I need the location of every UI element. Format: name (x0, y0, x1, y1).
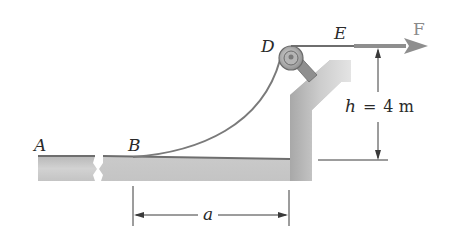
height-value: 4 m (383, 97, 413, 116)
label-dimension-a: a (203, 204, 213, 224)
height-var: h (345, 96, 356, 116)
label-point-B: B (127, 135, 141, 155)
label-point-D: D (260, 36, 275, 56)
ground-left-segment (38, 156, 97, 181)
pulley-D (279, 46, 303, 70)
label-height: h = 4 m (345, 96, 414, 116)
label-point-E: E (333, 23, 347, 43)
label-point-A: A (32, 135, 46, 155)
cable-curve-B-to-D (133, 60, 280, 157)
cable-pulley-diagram: A B D E F h = 4 m a (0, 0, 451, 232)
height-eq: = (363, 97, 376, 116)
label-force-F: F (413, 19, 425, 39)
force-arrow-F (354, 38, 428, 54)
